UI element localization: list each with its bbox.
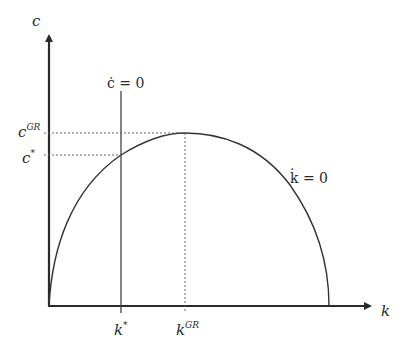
c-dot-zero-label: ċ = 0	[107, 75, 144, 91]
x-axis-label: k	[381, 302, 390, 320]
k-dot-zero-curve	[49, 133, 329, 306]
k-dot-zero-label: k̇ = 0	[290, 168, 328, 186]
y-axis-label: c	[32, 12, 41, 30]
c-star-label: c*	[22, 148, 35, 167]
c-gr-label: cGR	[18, 122, 41, 141]
k-gr-label: kGR	[176, 320, 199, 339]
phase-diagram: c k ċ = 0 k̇ = 0 cGR c* k* kGR	[0, 0, 408, 351]
k-star-label: k*	[114, 320, 128, 339]
